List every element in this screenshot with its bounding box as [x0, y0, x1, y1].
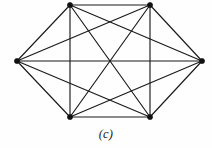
graph-edge-layer [17, 5, 202, 117]
graph-vertex [199, 58, 204, 63]
graph-edge [150, 61, 202, 117]
graph-edge [17, 5, 70, 61]
graph-edge [17, 61, 70, 117]
graph-vertex [147, 114, 152, 119]
graph-vertex [67, 114, 72, 119]
graph-edge [150, 5, 202, 61]
graph-vertex [147, 2, 152, 7]
graph-vertex [14, 58, 19, 63]
figure-container: (c) [0, 0, 212, 148]
figure-caption: (c) [0, 126, 212, 142]
graph-vertex [67, 2, 72, 7]
